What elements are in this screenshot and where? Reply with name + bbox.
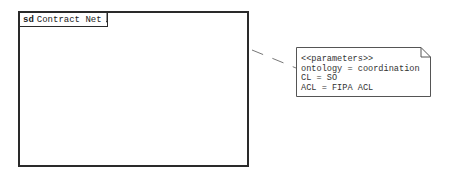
note-line-acl: ACL = FIPA ACL	[301, 84, 420, 94]
note-text: <<parameters>>ontology = coordinationCL …	[301, 55, 420, 93]
parameters-note: <<parameters>>ontology = coordinationCL …	[296, 47, 431, 97]
